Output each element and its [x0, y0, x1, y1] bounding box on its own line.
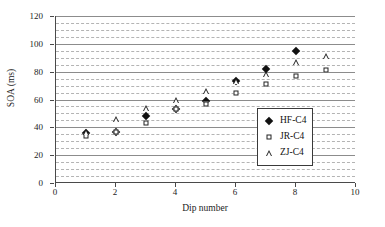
x-axis-tick-label: 2: [113, 188, 118, 197]
y-axis-tick: [50, 127, 54, 128]
legend-marker-icon: [263, 115, 275, 127]
y-axis-tick: [50, 16, 54, 17]
data-point-jr-c4: [174, 107, 179, 112]
data-point-zj-c4: [173, 97, 179, 103]
data-point-jr-c4: [204, 101, 209, 106]
legend-marker-icon: [263, 131, 275, 143]
legend-item: ZJ-C4: [263, 145, 306, 161]
chart-figure: SOA (ms) 020406080100120 0246810 Dip num…: [0, 0, 385, 227]
x-axis-tick-label: 6: [233, 188, 238, 197]
data-point-jr-c4: [234, 90, 239, 95]
y-axis-tick-labels: 020406080100120: [22, 16, 50, 183]
x-axis-tick-label: 0: [53, 188, 58, 197]
data-point-zj-c4: [293, 59, 299, 65]
data-point-zj-c4: [143, 105, 149, 111]
legend-item: HF-C4: [263, 113, 306, 129]
data-point-zj-c4: [323, 53, 329, 59]
data-point-jr-c4: [294, 73, 299, 78]
data-point-jr-c4: [114, 129, 119, 134]
y-axis-tick-label: 80: [34, 67, 43, 76]
data-point-hf-c4: [292, 47, 300, 55]
chart-legend: HF-C4JR-C4ZJ-C4: [257, 108, 313, 166]
legend-label: ZJ-C4: [280, 148, 304, 158]
y-axis-title: SOA (ms): [6, 53, 16, 123]
data-point-zj-c4: [263, 71, 269, 77]
x-axis-title: Dip number: [55, 203, 355, 213]
y-axis-tick: [50, 100, 54, 101]
legend-marker-glyph: [265, 117, 273, 125]
legend-label: HF-C4: [280, 116, 306, 126]
y-axis-tick: [50, 155, 54, 156]
y-axis-tick-label: 40: [34, 123, 43, 132]
legend-marker-icon: [263, 147, 275, 159]
data-point-zj-c4: [83, 129, 89, 135]
y-axis-tick-label: 20: [34, 151, 43, 160]
y-axis-tick-label: 0: [39, 179, 44, 188]
legend-item: JR-C4: [263, 129, 306, 145]
x-axis-tick-label: 8: [293, 188, 298, 197]
y-axis-tick-label: 120: [30, 12, 44, 21]
y-axis-tick: [50, 44, 54, 45]
data-point-zj-c4: [113, 116, 119, 122]
data-point-jr-c4: [144, 121, 149, 126]
x-axis-tick-label: 10: [351, 188, 360, 197]
data-point-hf-c4: [142, 112, 150, 120]
data-point-jr-c4: [324, 68, 329, 73]
x-axis-tick-label: 4: [173, 188, 178, 197]
y-axis-tick-label: 60: [34, 95, 43, 104]
y-axis-tick: [50, 183, 54, 184]
legend-marker-glyph: [266, 150, 272, 156]
y-axis-tick-label: 100: [30, 39, 44, 48]
data-point-zj-c4: [203, 88, 209, 94]
data-point-jr-c4: [264, 82, 269, 87]
legend-marker-glyph: [267, 135, 272, 140]
y-axis-tick: [50, 72, 54, 73]
data-point-zj-c4: [233, 78, 239, 84]
legend-label: JR-C4: [280, 132, 304, 142]
x-axis-tick-labels: 0246810: [55, 188, 355, 202]
